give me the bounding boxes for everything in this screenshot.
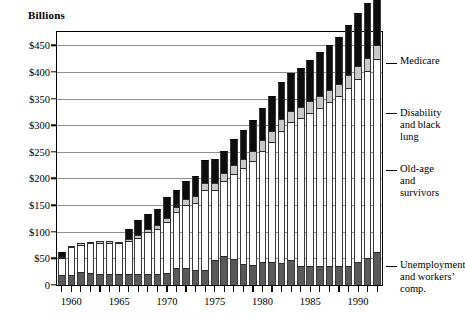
bar-segment (335, 266, 343, 285)
bar-segment (163, 273, 171, 285)
bar-segment (134, 220, 142, 235)
bar-segment (220, 181, 228, 256)
bar-segment (364, 258, 372, 285)
bar-segment (144, 274, 152, 285)
y-axis-tick-label: $250 (8, 146, 50, 157)
x-axis-tick-mark (291, 286, 292, 292)
bar-segment (173, 212, 181, 268)
bar-segment (297, 118, 305, 266)
x-axis-tick-mark (119, 286, 120, 292)
bar-segment (278, 263, 286, 285)
bar-segment (201, 160, 209, 183)
leader-line-disability (386, 113, 397, 114)
y-axis-tick-label: $100 (8, 226, 50, 237)
bar-segment (354, 79, 362, 262)
bar-segment (287, 73, 295, 111)
bar-segment (259, 108, 267, 140)
bar-segment (306, 101, 314, 113)
bar-segment (134, 235, 142, 238)
x-axis-tick-mark (319, 286, 320, 292)
bar-segment (373, 252, 381, 285)
bar-segment (173, 268, 181, 285)
bar-segment (125, 239, 133, 241)
bar (87, 32, 95, 285)
bar-segment (297, 68, 305, 107)
bar (134, 32, 142, 285)
bar-segment (278, 131, 286, 263)
bar (77, 32, 85, 285)
y-axis-tick-label: $50 (8, 253, 50, 264)
bar (259, 32, 267, 285)
bar-segment (335, 96, 343, 266)
x-axis-tick-mark (138, 286, 139, 292)
bar (364, 32, 372, 285)
bar-segment (364, 3, 372, 57)
bar (278, 32, 286, 285)
x-axis-tick-mark (176, 286, 177, 292)
bar (144, 32, 152, 285)
bar-segment (192, 203, 200, 270)
bar (354, 32, 362, 285)
bar-segment (335, 84, 343, 96)
bar-segment (240, 159, 248, 169)
bar-segment (115, 274, 123, 285)
bar-segment (278, 82, 286, 120)
bar-segment (77, 272, 85, 285)
x-axis-tick-mark (348, 286, 349, 292)
x-axis-tick-mark (214, 286, 215, 292)
bar-segment (134, 274, 142, 285)
bar-segment (77, 243, 85, 244)
bar (287, 32, 295, 285)
bar-segment (96, 241, 104, 243)
bar-segment (58, 258, 66, 275)
x-axis-tick-mark (377, 286, 378, 292)
bar-segment (182, 199, 190, 205)
bar (211, 32, 219, 285)
bar-segment (297, 107, 305, 118)
bar-segment (211, 260, 219, 285)
legend-label-unemployment: Unemployment and workers’ comp. (400, 259, 465, 296)
bar-segment (306, 60, 314, 102)
bar-segment (297, 266, 305, 285)
x-axis-tick-mark (128, 286, 129, 292)
bar-segment (58, 257, 66, 258)
bar-segment (68, 275, 76, 285)
x-axis-tick-mark (109, 286, 110, 292)
bar-segment (249, 120, 257, 151)
bar-segment (125, 241, 133, 275)
x-axis-tick-mark (195, 286, 196, 292)
bar-segment (240, 168, 248, 264)
bar-segment (144, 232, 152, 274)
bar (58, 32, 66, 285)
bar (192, 32, 200, 285)
bar-segment (192, 196, 200, 203)
x-axis-tick-mark (281, 286, 282, 292)
bar-segment (335, 37, 343, 84)
bar-segment (192, 270, 200, 285)
bar-segment (154, 274, 162, 285)
x-axis-tick-label: 1965 (109, 296, 130, 307)
bar-segment (287, 111, 295, 122)
bar-segment (58, 275, 66, 285)
x-axis-tick-label: 1975 (204, 296, 225, 307)
bar-segment (259, 140, 267, 151)
bar-segment (154, 225, 162, 228)
x-axis-tick-mark (90, 286, 91, 292)
y-axis-tick-label: $450 (8, 40, 50, 51)
bar-segment (220, 151, 228, 173)
bar-segment (354, 66, 362, 79)
bar-segment (268, 262, 276, 285)
x-axis-tick-label: 1990 (348, 296, 369, 307)
bar-segment (287, 260, 295, 285)
x-axis-tick-mark (205, 286, 206, 292)
bar-segment (259, 151, 267, 262)
bar-segment (278, 119, 286, 130)
bar-group (57, 32, 382, 285)
bar-segment (115, 243, 123, 274)
bar-segment (144, 214, 152, 229)
bar (96, 32, 104, 285)
bar (106, 32, 114, 285)
bar-segment (163, 222, 171, 274)
bar-segment (345, 75, 353, 88)
